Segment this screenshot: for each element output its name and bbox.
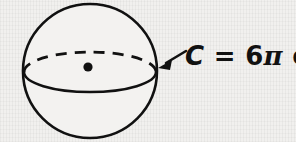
- pi-symbol: π: [264, 41, 283, 71]
- circumference-variable: C: [185, 41, 204, 71]
- sphere-figure: C = 6π cm: [0, 0, 296, 142]
- equals-sign: =: [204, 41, 245, 71]
- circumference-label: C = 6π cm: [185, 43, 296, 69]
- circumference-unit: cm: [283, 41, 296, 71]
- annotation-layer: C = 6π cm: [0, 0, 296, 142]
- circumference-coefficient: 6: [245, 41, 263, 71]
